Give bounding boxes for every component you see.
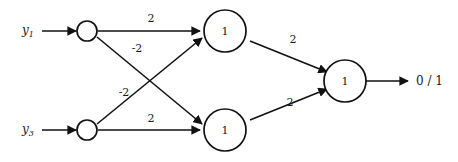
input-label-top: y1 <box>21 23 34 39</box>
input-node-bottom[interactable] <box>77 120 97 140</box>
weight-hidden-bottom-to-output: 2 <box>287 96 294 109</box>
output-node-label: 1 <box>342 75 349 88</box>
edge-hidden-top-to-output <box>250 41 327 72</box>
input-label-bottom: y3 <box>21 122 34 138</box>
neural-network-diagram: 1 1 1 y1 y3 2 -2 -2 2 2 2 0 / 1 <box>0 0 458 162</box>
weight-in-top-to-hidden-top: 2 <box>148 12 155 25</box>
hidden-node-top-label: 1 <box>222 25 229 38</box>
input-label-bottom-sub: 3 <box>29 129 34 138</box>
diagram-canvas: 1 1 1 y1 y3 2 -2 -2 2 2 2 0 / 1 <box>0 0 458 162</box>
output-value-label: 0 / 1 <box>416 74 443 88</box>
weight-in-bottom-to-hidden-top: -2 <box>132 42 143 55</box>
input-label-top-sub: 1 <box>29 30 34 39</box>
weight-hidden-top-to-output: 2 <box>290 33 297 46</box>
input-node-top[interactable] <box>77 21 97 41</box>
weight-in-bottom-to-hidden-bottom: 2 <box>148 112 155 125</box>
hidden-node-bottom-label: 1 <box>222 124 229 137</box>
weight-in-top-to-hidden-bottom: -2 <box>119 86 130 99</box>
